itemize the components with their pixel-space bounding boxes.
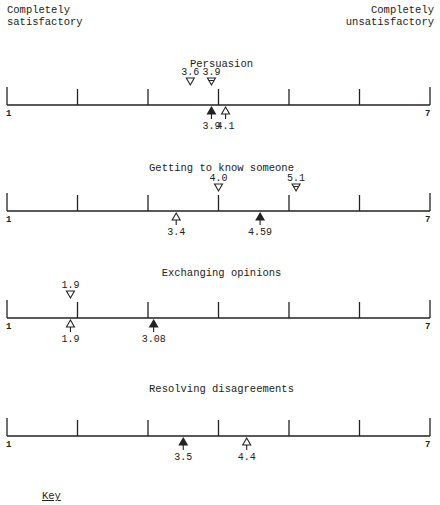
marker-value-label: 3.5 — [174, 452, 192, 463]
marker-value-label: 3.4 — [167, 227, 185, 238]
marker-value-label: 3.08 — [142, 334, 166, 345]
panel-title: Exchanging opinions — [162, 267, 282, 279]
marker-value-label: 1.9 — [61, 280, 79, 291]
marker-value-label: 4.59 — [248, 227, 272, 238]
scale-panel: Persuasion173.63.93.94.1 — [6, 58, 430, 132]
scale-min-label: 1 — [6, 109, 12, 119]
open-arrow-marker-icon — [243, 438, 251, 445]
scale-max-label: 7 — [425, 440, 430, 450]
marker-value-label: 1.9 — [61, 334, 79, 345]
marked-triangle-marker-icon — [292, 184, 300, 191]
marker-value-label: 5.1 — [287, 173, 305, 184]
panel-title: Persuasion — [190, 58, 253, 70]
scale-min-label: 1 — [6, 215, 12, 225]
marker-value-label: 4.0 — [209, 173, 227, 184]
marker-value-label: 3.6 — [181, 67, 199, 78]
filled-arrow-marker-icon — [179, 438, 187, 445]
key-heading: Key — [42, 490, 61, 502]
scale-panel: Exchanging opinions171.91.93.08 — [6, 267, 430, 345]
open-triangle-marker-icon — [215, 184, 223, 191]
open-arrow-marker-icon — [172, 213, 180, 220]
open-triangle-marker-icon — [186, 78, 194, 85]
filled-arrow-marker-icon — [207, 107, 215, 114]
scale-max-label: 7 — [425, 322, 430, 332]
rating-scales-chart: Persuasion173.63.93.94.1Getting to know … — [0, 0, 440, 505]
scale-panel: Getting to know someone174.05.13.44.59 — [6, 162, 430, 238]
scale-min-label: 1 — [6, 322, 12, 332]
marker-value-label: 3.9 — [202, 67, 220, 78]
scale-max-label: 7 — [425, 215, 430, 225]
panel-title: Resolving disagreements — [149, 383, 294, 395]
marked-triangle-marker-icon — [207, 78, 215, 85]
scale-min-label: 1 — [6, 440, 12, 450]
scale-panel: Resolving disagreements173.54.4 — [6, 383, 430, 463]
marker-value-label: 4.4 — [238, 452, 256, 463]
filled-arrow-marker-icon — [256, 213, 264, 220]
marker-value-label: 4.1 — [217, 121, 235, 132]
open-arrow-marker-icon — [66, 320, 74, 327]
open-arrow-marker-icon — [222, 107, 230, 114]
scale-max-label: 7 — [425, 109, 430, 119]
filled-arrow-marker-icon — [150, 320, 158, 327]
open-triangle-marker-icon — [66, 291, 74, 298]
